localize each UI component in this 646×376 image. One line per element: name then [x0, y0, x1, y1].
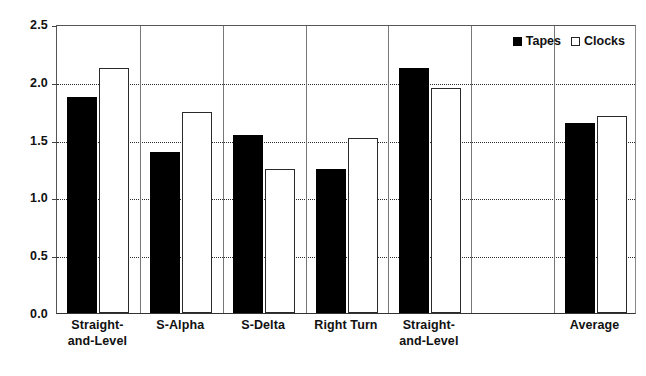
- x-axis-label: Average: [547, 318, 642, 334]
- legend-entry-clocks: Clocks: [571, 34, 625, 48]
- hollow-square-icon: [571, 37, 580, 46]
- y-axis: 0.00.51.01.52.02.5: [0, 0, 48, 376]
- bar-tapes-6: [565, 123, 595, 313]
- x-axis-label: Right Turn: [299, 318, 394, 334]
- bar-clocks-2: [265, 169, 295, 314]
- bar-clocks-1: [182, 112, 212, 313]
- legend-label: Clocks: [584, 34, 625, 48]
- y-axis-label: 0.0: [30, 307, 48, 321]
- x-axis: Straight- and-LevelS-AlphaS-DeltaRight T…: [56, 318, 636, 374]
- bar-tapes-4: [399, 68, 429, 313]
- filled-square-icon: [513, 37, 522, 46]
- plot-area: TapesClocks: [56, 25, 636, 314]
- x-axis-label: S-Delta: [216, 318, 311, 334]
- bar-chart: 0.00.51.01.52.02.5 TapesClocks Straight-…: [0, 0, 646, 376]
- y-axis-label: 1.0: [30, 191, 48, 205]
- x-axis-label: Straight- and-Level: [381, 318, 476, 349]
- y-axis-label: 0.5: [30, 249, 48, 263]
- bar-clocks-0: [99, 68, 129, 313]
- legend-label: Tapes: [526, 34, 561, 48]
- bar-tapes-1: [150, 152, 180, 313]
- bar-clocks-6: [597, 116, 627, 313]
- x-axis-label: Straight- and-Level: [50, 318, 145, 349]
- bar-clocks-3: [348, 138, 378, 313]
- legend: TapesClocks: [513, 34, 625, 48]
- bar-tapes-3: [316, 169, 346, 314]
- y-axis-label: 2.0: [30, 76, 48, 90]
- bar-clocks-4: [431, 88, 461, 313]
- x-axis-label: S-Alpha: [133, 318, 228, 334]
- legend-entry-tapes: Tapes: [513, 34, 561, 48]
- y-axis-label: 1.5: [30, 134, 48, 148]
- y-axis-label: 2.5: [30, 18, 48, 32]
- bar-tapes-0: [67, 97, 97, 313]
- bars: [57, 26, 635, 313]
- bar-tapes-2: [233, 135, 263, 313]
